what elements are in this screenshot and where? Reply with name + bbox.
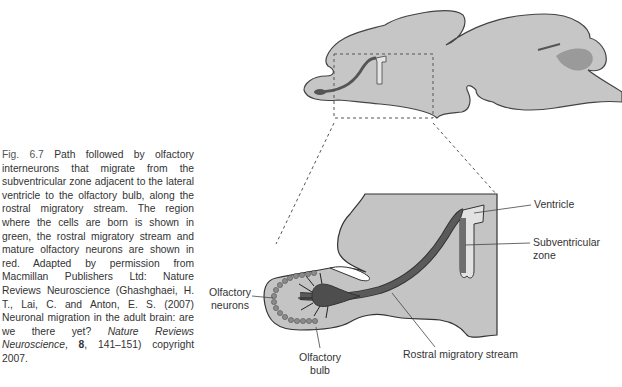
label-olfactory-bulb-line1: Olfactory bbox=[292, 351, 348, 364]
label-rostral-migratory-stream: Rostral migratory stream bbox=[403, 348, 518, 361]
brain-diagram bbox=[0, 0, 622, 387]
label-olfactory-neurons: Olfactory neurons bbox=[202, 286, 258, 312]
label-olfactory-neurons-line1: Olfactory bbox=[202, 286, 258, 299]
label-olfactory-neurons-line2: neurons bbox=[202, 299, 258, 312]
label-olfactory-bulb-line2: bulb bbox=[292, 364, 348, 377]
label-subventricular-zone: Subventricular zone bbox=[533, 236, 622, 262]
label-olfactory-bulb: Olfactory bulb bbox=[292, 351, 348, 377]
inset-enlargement bbox=[252, 194, 531, 348]
label-ventricle: Ventricle bbox=[534, 198, 574, 211]
